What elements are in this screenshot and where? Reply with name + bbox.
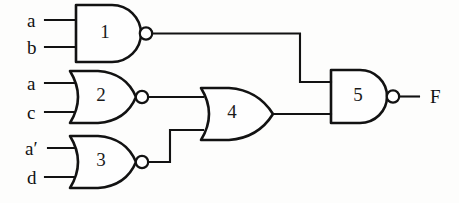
gate-3-inversion-bubble — [136, 156, 148, 168]
input-label-a-gate2: a — [27, 74, 35, 93]
output-label-f: F — [430, 87, 441, 106]
gate-5-number: 5 — [353, 84, 363, 105]
input-label-c: c — [27, 103, 35, 122]
input-label-b: b — [27, 38, 37, 57]
gate-5-inversion-bubble — [387, 90, 399, 102]
schematic-svg: 1 2 3 4 5 — [0, 0, 459, 203]
input-label-a-prime: a′ — [25, 139, 38, 158]
gate-2-number: 2 — [96, 84, 106, 105]
wire-gate1-out-to-gate5-in — [152, 34, 331, 83]
gate-4-number: 4 — [227, 101, 237, 122]
gate-4-or-body — [201, 88, 273, 140]
logic-circuit-diagram: 1 2 3 4 5 a b a c a′ d F — [0, 0, 459, 203]
wire-gate3-out-to-gate4-in — [148, 130, 203, 162]
gate-2-inversion-bubble — [136, 91, 148, 103]
gate-1-inversion-bubble — [140, 27, 152, 39]
gate-3-number: 3 — [96, 149, 106, 170]
input-label-d: d — [27, 168, 37, 187]
gate-1-number: 1 — [100, 21, 110, 42]
input-label-a-gate1: a — [27, 11, 35, 30]
